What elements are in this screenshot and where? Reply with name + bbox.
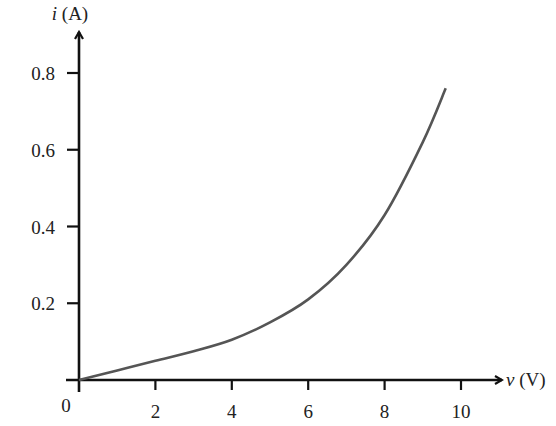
y-tick-label: 0.2 (31, 293, 55, 314)
y-axis-label: i (A) (52, 3, 88, 25)
x-tick-label: 6 (303, 401, 313, 422)
x-tick-label: 8 (380, 401, 390, 422)
y-tick-label: 0.4 (31, 217, 55, 238)
ticks: 2468100.20.40.60.8 (31, 63, 470, 422)
axes (66, 32, 502, 392)
x-tick-label: 2 (151, 401, 161, 422)
iv-curve (79, 88, 446, 380)
y-tick-label: 0.8 (31, 63, 55, 84)
x-tick-label: 10 (452, 401, 471, 422)
y-tick-label: 0.6 (31, 140, 55, 161)
iv-chart: 2468100.20.40.60.8 i (A) v (V) 0 (0, 0, 556, 426)
origin-label: 0 (61, 395, 71, 416)
x-tick-label: 4 (227, 401, 237, 422)
x-axis-label: v (V) (506, 369, 546, 391)
